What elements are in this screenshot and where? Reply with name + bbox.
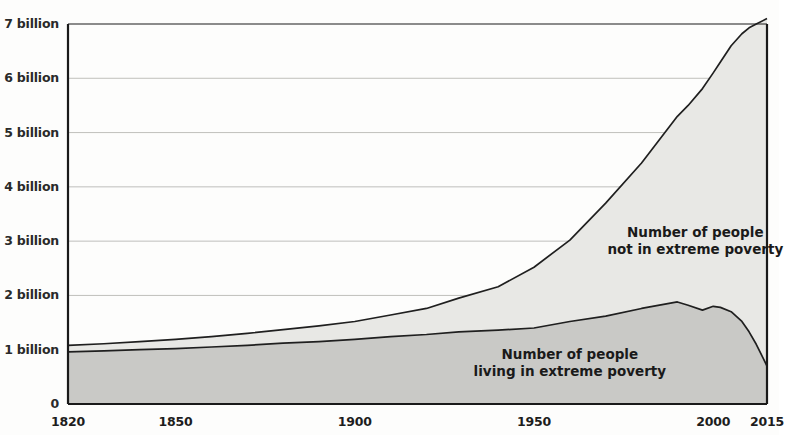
x-tick-label: 2015 — [737, 414, 788, 429]
x-tick-label: 1900 — [325, 414, 385, 429]
x-tick-label: 2000 — [683, 414, 743, 429]
annotation-line: living in extreme poverty — [460, 363, 680, 380]
y-tick-label: 0 — [51, 396, 60, 411]
x-tick-label: 1950 — [504, 414, 564, 429]
y-tick-label: 6 billion — [4, 70, 59, 85]
x-tick-label: 1850 — [146, 414, 206, 429]
x-tick-label: 1820 — [38, 414, 98, 429]
y-tick-label: 5 billion — [4, 125, 59, 140]
annotation-line: Number of people — [460, 346, 680, 363]
annotation-living-in-extreme-poverty: Number of peopleliving in extreme povert… — [460, 346, 680, 380]
y-tick-label: 4 billion — [4, 179, 59, 194]
y-tick-label: 1 billion — [4, 342, 59, 357]
annotation-not-in-extreme-poverty: Number of peoplenot in extreme poverty — [585, 224, 788, 258]
y-tick-label: 7 billion — [4, 16, 59, 31]
annotation-line: not in extreme poverty — [585, 241, 788, 258]
y-tick-label: 3 billion — [4, 233, 59, 248]
y-tick-label: 2 billion — [4, 287, 59, 302]
annotation-line: Number of people — [585, 224, 788, 241]
